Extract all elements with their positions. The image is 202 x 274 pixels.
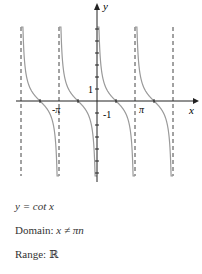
domain-label: Domain: [15,224,54,236]
range-label: Range: [15,248,46,260]
equation-caption: y = cot x [15,200,54,212]
y-tick-label-neg1: -1 [103,109,111,120]
x-axis-arrow [193,98,199,104]
y-axis-label: y [102,0,108,12]
x-axis-label: x [188,104,194,116]
cotangent-graph: x y -π π 1 -1 [0,0,202,190]
domain-value: x ≠ πn [56,224,83,236]
range-caption: Range: ℝ [15,248,58,261]
range-value: ℝ [49,248,58,260]
y-tick-label-1: 1 [88,84,93,95]
x-tick-label-pi: π [139,104,145,115]
x-tick-label-neg-pi: -π [52,104,61,115]
y-axis-arrow [94,3,100,10]
domain-caption: Domain: x ≠ πn [15,224,84,236]
